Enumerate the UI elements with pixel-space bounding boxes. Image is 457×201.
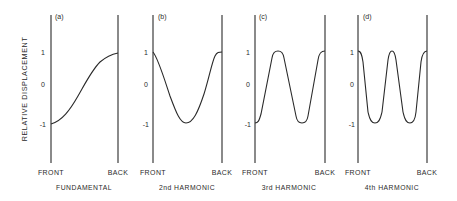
panel-name: 4th HARMONIC (365, 184, 419, 191)
panel-name: 2nd HARMONIC (159, 184, 215, 191)
tick-label-zero: 0 (144, 81, 148, 88)
panel-name: 3rd HARMONIC (262, 184, 317, 191)
tick-label-neg: -1 (245, 121, 251, 128)
harmonics-figure: RELATIVE DISPLACEMENT (a) 1 0 -1 FRONT B… (0, 0, 457, 201)
tick-label-pos: 1 (246, 49, 250, 56)
back-label: BACK (108, 169, 129, 176)
front-label: FRONT (242, 169, 268, 176)
tick-label-pos: 1 (350, 49, 354, 56)
mode-curve (51, 53, 118, 124)
back-label: BACK (315, 169, 336, 176)
mode-curve (255, 51, 325, 123)
y-axis-label: RELATIVE DISPLACEMENT (20, 37, 29, 142)
panel-tag: (c) (259, 13, 267, 21)
tick-label-pos: 1 (41, 49, 45, 56)
mode-curve (358, 51, 427, 123)
tick-label-zero: 0 (41, 81, 45, 88)
panel-tag: (d) (363, 13, 372, 21)
front-label: FRONT (140, 169, 166, 176)
back-label: BACK (212, 169, 233, 176)
panel-c: (c) 1 0 -1 FRONT BACK 3rd HARMONIC (242, 13, 335, 191)
tick-label-neg: -1 (349, 121, 355, 128)
tick-label-neg: -1 (40, 121, 46, 128)
mode-curve (153, 52, 222, 123)
front-label: FRONT (345, 169, 371, 176)
panel-tag: (a) (55, 13, 64, 21)
tick-label-pos: 1 (144, 49, 148, 56)
panel-tag: (b) (158, 13, 167, 21)
tick-label-neg: -1 (143, 121, 149, 128)
panel-b: (b) 1 0 -1 FRONT BACK 2nd HARMONIC (140, 13, 232, 191)
back-label: BACK (417, 169, 438, 176)
panel-a: (a) 1 0 -1 FRONT BACK FUNDAMENTAL (38, 13, 128, 191)
panel-d: (d) 1 0 -1 FRONT BACK 4th HARMONIC (345, 13, 437, 191)
tick-label-zero: 0 (350, 81, 354, 88)
front-label: FRONT (38, 169, 64, 176)
tick-label-zero: 0 (246, 81, 250, 88)
panel-name: FUNDAMENTAL (56, 184, 112, 191)
